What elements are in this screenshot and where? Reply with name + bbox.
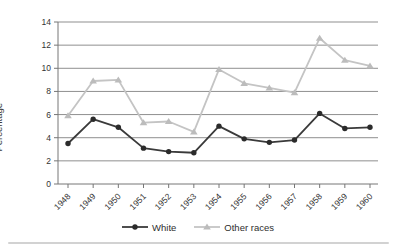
x-tick-label: 1957 [278,191,299,212]
data-point-marker [166,149,171,154]
data-point-marker [367,125,372,130]
data-point-marker [292,137,297,142]
legend-label-white: White [152,222,176,233]
line-chart-figure: Percentage 02468101214194819491950195119… [0,0,396,252]
x-tick-label: 1959 [329,191,350,212]
y-tick-label: 0 [46,179,51,189]
data-point-marker [316,35,324,41]
x-tick-label: 1956 [253,191,274,212]
data-point-marker [90,117,95,122]
data-point-marker [267,140,272,145]
y-tick-label: 10 [42,63,52,73]
x-tick-label: 1948 [52,191,73,212]
other-races-series-swatch-icon [194,222,220,232]
series-line-1 [68,38,370,132]
x-tick-label: 1952 [153,191,174,212]
legend: White Other races [0,219,396,235]
data-point-marker [216,123,221,128]
data-point-marker [191,150,196,155]
x-tick-label: 1950 [102,191,123,212]
y-tick-label: 6 [46,110,51,120]
y-tick-label: 4 [46,133,51,143]
legend-item-other-races: Other races [194,222,274,233]
data-point-marker [342,126,347,131]
x-tick-label: 1951 [127,191,148,212]
data-point-marker [65,141,70,146]
x-tick-label: 1954 [203,191,224,212]
white-series-swatch-icon [122,222,148,232]
data-point-marker [215,66,223,72]
x-tick-label: 1958 [304,191,325,212]
series-line-0 [68,113,370,152]
y-axis-title-text: Percentage [0,103,3,152]
plot-area: 0246810121419481949195019511952195319541… [0,0,396,218]
data-point-marker [141,145,146,150]
bottom-divider [8,242,389,244]
y-tick-label: 12 [42,40,52,50]
x-tick-label: 1955 [228,191,249,212]
x-tick-label: 1960 [354,191,375,212]
legend-item-white: White [122,222,176,233]
data-point-marker [241,136,246,141]
data-point-marker [116,125,121,130]
y-tick-label: 14 [42,17,52,27]
x-tick-label: 1949 [77,191,98,212]
legend-label-other-races: Other races [224,222,274,233]
x-tick-label: 1953 [178,191,199,212]
y-tick-label: 2 [46,156,51,166]
data-point-marker [317,111,322,116]
y-tick-label: 8 [46,86,51,96]
